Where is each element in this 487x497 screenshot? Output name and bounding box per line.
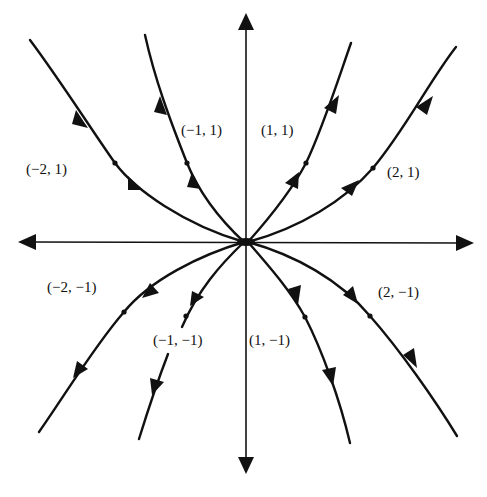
arrow-icon: [187, 172, 201, 189]
label-1-m1: (1, −1): [249, 332, 290, 349]
point-2-1: [370, 165, 375, 170]
label-1-1: (1, 1): [261, 122, 294, 139]
point-m2-1: [112, 160, 117, 165]
trajectory-m1-1: [145, 35, 244, 242]
arrow-icon: [150, 378, 164, 395]
x-axis-right-arrow-icon: [456, 235, 474, 251]
phase-portrait-figure: (−1, 1) (1, 1) (−2, 1) (2, 1) (−2, −1) (…: [0, 0, 487, 497]
trajectory-m2-1: [30, 40, 244, 242]
trajectory-m2-m1: [39, 242, 244, 432]
flow-arrows: [72, 95, 433, 395]
label-m2-1: (−2, 1): [26, 161, 67, 178]
arrow-icon: [190, 291, 204, 306]
arrow-icon: [322, 367, 336, 386]
point-m1-m1: [183, 313, 188, 318]
label-m2-m1: (−2, −1): [47, 279, 96, 296]
arrow-icon: [416, 96, 433, 115]
trajectory-m1-m1-upper: [182, 242, 244, 327]
label-m1-1: (−1, 1): [181, 122, 222, 139]
marked-points: [112, 160, 375, 319]
point-1-m1: [302, 314, 307, 319]
y-axis-up-arrow-icon: [238, 13, 254, 30]
trajectory-1-1: [248, 43, 351, 242]
point-m1-1: [184, 160, 189, 165]
x-axis-left-arrow-icon: [18, 234, 36, 250]
point-2-m1: [367, 313, 372, 318]
point-1-1: [303, 160, 308, 165]
y-axis-down-arrow-icon: [238, 457, 254, 474]
arrow-icon: [343, 286, 358, 304]
label-2-1: (2, 1): [387, 164, 420, 181]
point-m2-m1: [121, 309, 126, 314]
origin-node: [237, 238, 255, 246]
trajectory-2-1: [248, 47, 456, 242]
trajectory-m1-m1-lower: [139, 354, 168, 439]
arrow-icon: [341, 180, 359, 196]
label-m1-m1: (−1, −1): [153, 332, 202, 349]
label-2-m1: (2, −1): [378, 284, 419, 301]
